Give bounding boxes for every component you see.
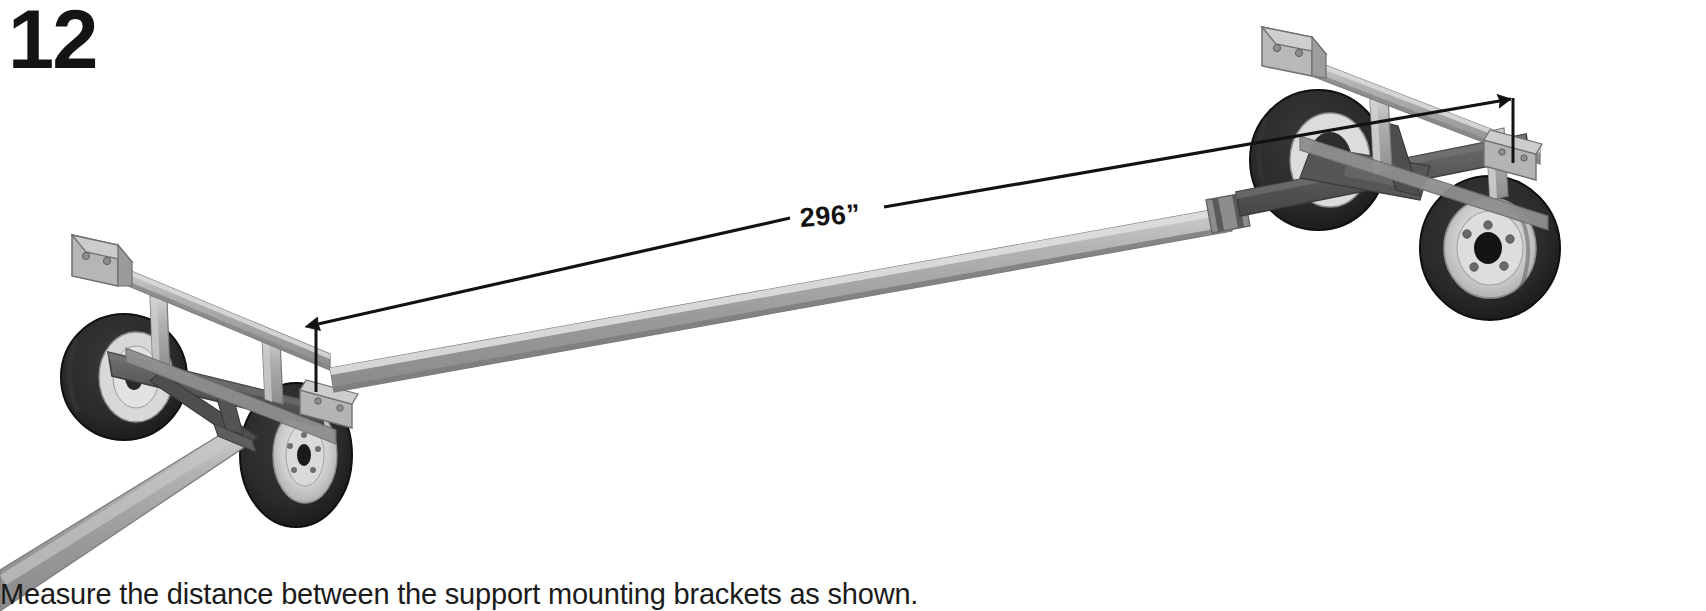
left-axle-assembly <box>0 235 358 611</box>
dimension-label: 296” <box>799 199 862 234</box>
main-center-beam <box>330 193 1250 392</box>
step-number: 12 <box>8 0 96 85</box>
step-caption: Measure the distance between the support… <box>0 578 1706 611</box>
trailer-assembly-illustration <box>0 0 1706 611</box>
left-support-mounting-bracket <box>72 235 132 286</box>
right-axle-assembly <box>1236 27 1560 320</box>
illustration-page: 12 296” Measure the distance between the… <box>0 0 1706 611</box>
right-support-mounting-bracket <box>1262 27 1326 78</box>
